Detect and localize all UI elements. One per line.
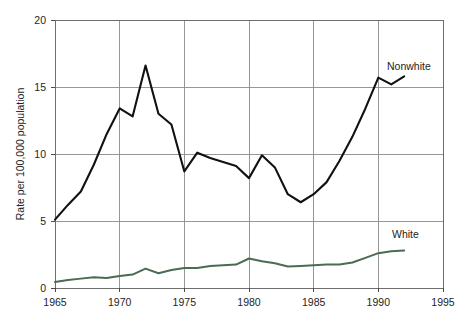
y-tick-label-15: 15 <box>34 81 46 93</box>
y-axis-tick-labels: 20 15 10 5 0 <box>34 14 46 294</box>
x-tick-label-1975: 1975 <box>173 296 197 308</box>
y-tick-label-0: 0 <box>40 282 46 294</box>
line-chart-figure: 20 15 10 5 0 1965 1970 1975 1980 1985 19… <box>0 0 467 321</box>
y-tick-label-20: 20 <box>34 14 46 26</box>
x-axis-tick-labels: 1965 1970 1975 1980 1985 1990 1995 <box>43 296 455 308</box>
y-tick-label-5: 5 <box>40 215 46 227</box>
cropped-caption-fragment <box>0 315 467 321</box>
x-tick-label-1965: 1965 <box>43 296 67 308</box>
x-tick-label-1980: 1980 <box>237 296 261 308</box>
series-label-white: White <box>392 228 419 240</box>
y-tick-label-10: 10 <box>34 148 46 160</box>
chart-canvas: 20 15 10 5 0 1965 1970 1975 1980 1985 19… <box>0 0 467 321</box>
y-axis-tickmarks <box>51 20 55 288</box>
x-axis-tickmarks <box>55 288 443 292</box>
x-tick-label-1985: 1985 <box>302 296 326 308</box>
y-axis-title: Rate per 100,000 population <box>14 88 26 221</box>
x-tick-label-1995: 1995 <box>431 296 455 308</box>
series-label-nonwhite: Nonwhite <box>387 60 431 72</box>
x-tick-label-1970: 1970 <box>108 296 132 308</box>
x-tick-label-1990: 1990 <box>367 296 391 308</box>
